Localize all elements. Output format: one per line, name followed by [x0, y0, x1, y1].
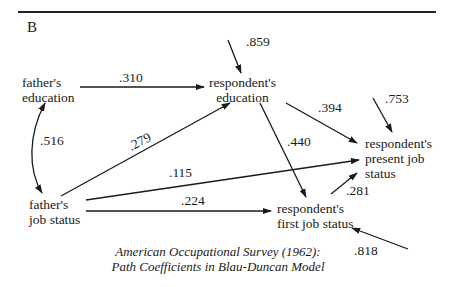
coef-res-rf: .818	[354, 243, 378, 259]
figure-caption: American Occupational Survey (1962): Pat…	[108, 244, 328, 274]
arrow-fj-rp	[86, 160, 359, 200]
coef-fe-re: .310	[119, 70, 143, 86]
node-label-line: present job	[365, 151, 432, 166]
coef-fj-rf: .224	[181, 193, 205, 209]
node-respondents-present-job-status: respondent's present job status	[365, 136, 432, 181]
arrow-res-re	[228, 40, 241, 73]
node-label-line: education	[209, 90, 276, 105]
node-respondents-education: respondent's education	[209, 75, 276, 105]
node-fathers-job-status: father's job status	[29, 197, 80, 227]
node-label-line: respondent's	[277, 201, 354, 216]
node-label-line: job status	[29, 212, 80, 227]
caption-line-2: Path Coefficients in Blau-Duncan Model	[108, 259, 328, 274]
coef-re-rf: .440	[287, 134, 311, 150]
node-fathers-education: father's education	[22, 75, 74, 105]
node-label-line: education	[22, 90, 74, 105]
node-label-line: father's	[29, 197, 80, 212]
node-respondents-first-job-status: respondent's first job status	[277, 201, 354, 231]
coef-fj-rp: .115	[169, 165, 192, 181]
node-label-line: respondent's	[365, 136, 432, 151]
coef-re-rp: .394	[318, 100, 342, 116]
coef-rf-rp: .281	[346, 183, 370, 199]
coef-res-rp: .753	[385, 91, 409, 107]
arrow-re-rf	[260, 103, 306, 197]
node-label-line: respondent's	[209, 75, 276, 90]
node-label-line: father's	[22, 75, 74, 90]
coef-fe-fj: .516	[40, 133, 64, 149]
coef-res-re: .859	[246, 34, 270, 50]
node-label-line: first job status	[277, 216, 354, 231]
caption-line-1: American Occupational Survey (1962):	[108, 244, 328, 259]
node-label-line: status	[365, 166, 432, 181]
